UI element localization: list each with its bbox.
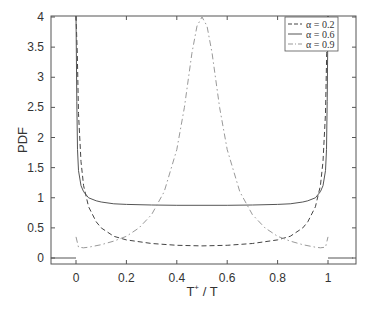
y-tick-label: 3	[37, 70, 44, 84]
x-tick-label: 0.6	[219, 271, 236, 285]
x-tick-label: 0	[73, 271, 80, 285]
legend: α = 0.2 α = 0.6 α = 0.9	[285, 17, 338, 51]
y-tick-label: 4	[37, 10, 44, 24]
y-tick-label: 1.5	[27, 161, 44, 175]
y-tick-label: 2.5	[27, 100, 44, 114]
y-tick-label: 3.5	[27, 40, 44, 54]
x-tick-label: 0.4	[168, 271, 185, 285]
x-tick-label: 0.8	[269, 271, 286, 285]
x-axis-label: T+ / T	[186, 283, 217, 299]
x-tick-label: 1	[325, 271, 332, 285]
plot-frame	[51, 16, 356, 264]
series-layer	[51, 16, 353, 258]
legend-label: α = 0.9	[306, 39, 334, 50]
y-axis-label: PDF	[15, 127, 30, 153]
y-tick-label: 0.5	[27, 221, 44, 235]
y-tick-label: 2	[37, 131, 44, 145]
y-tick-label: 1	[37, 191, 44, 205]
series-line-dash-dot	[76, 17, 328, 248]
chart-canvas: 00.20.40.60.8100.511.522.533.54 T+ / T P…	[0, 0, 372, 309]
axis-ticks	[51, 16, 356, 264]
x-tick-label: 0.2	[118, 271, 135, 285]
y-tick-label: 0	[37, 251, 44, 265]
